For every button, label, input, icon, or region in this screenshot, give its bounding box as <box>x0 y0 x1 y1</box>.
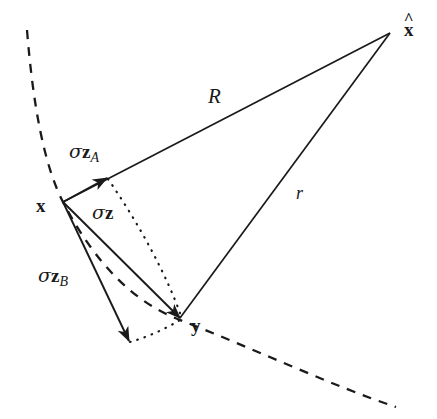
subscript-B: B <box>59 274 68 289</box>
vertex-label-x: x <box>36 196 46 215</box>
edge-label-R: R <box>208 86 221 107</box>
x-hat-glyph-wrapper: ^ x <box>404 20 414 39</box>
hat-accent-icon: ^ <box>404 10 414 27</box>
vertex-label-y: y <box>191 316 201 335</box>
vector-sigma-z-arrow <box>63 202 180 318</box>
edge-x-to-xhat-R <box>63 33 390 202</box>
sigma-glyph-A: σ <box>69 140 82 162</box>
z-glyph: z <box>105 202 113 223</box>
sigma-glyph-B: σ <box>38 264 51 286</box>
edge-y-to-xhat-r <box>180 33 390 318</box>
figure-root: x y ^ x R r σzA σz σzB <box>0 0 437 419</box>
subscript-A: A <box>90 150 99 165</box>
vector-label-sigma-z-B: σzB <box>38 266 68 289</box>
sigma-glyph: σ <box>92 201 105 223</box>
diagram-canvas <box>0 0 437 419</box>
vector-label-sigma-z: σz <box>92 203 113 222</box>
dotted-line-zA-to-y <box>108 179 181 316</box>
vector-label-sigma-z-A: σzA <box>69 142 99 165</box>
vector-sigma-z-A-arrow <box>63 178 107 202</box>
dotted-line-zB-to-y <box>130 320 180 342</box>
vertex-label-x-hat: ^ x <box>404 20 414 39</box>
edge-label-r: r <box>296 184 303 202</box>
